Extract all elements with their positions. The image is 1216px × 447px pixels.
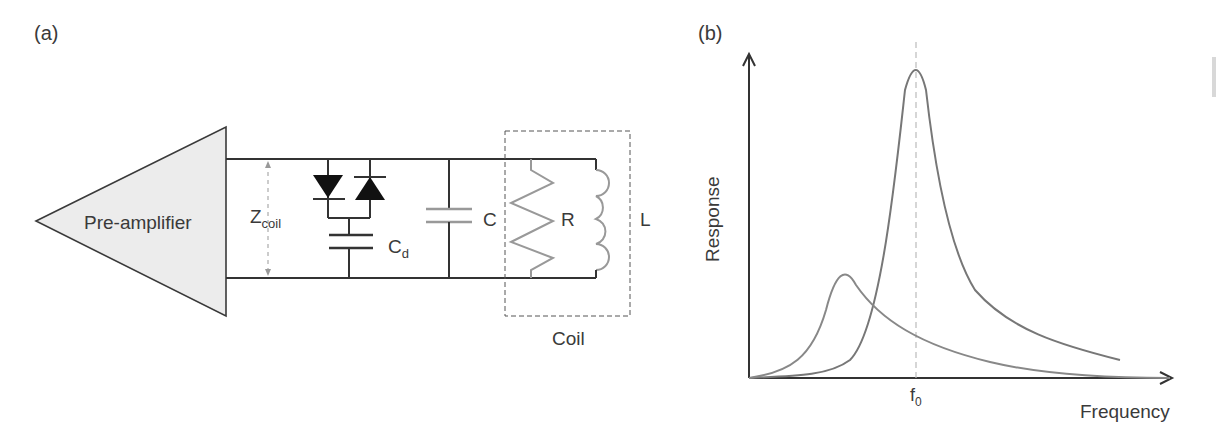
- curve-tuned: [749, 70, 1120, 378]
- y-axis-label: Response: [702, 176, 723, 262]
- inductor-l-icon: [596, 159, 609, 278]
- resistor-r-icon: [511, 159, 553, 278]
- diode-pair-icon: [313, 159, 386, 235]
- zcoil-label: Zcoil: [250, 206, 281, 231]
- chart-axes: [743, 54, 1172, 384]
- l-label: L: [640, 209, 651, 230]
- r-label: R: [561, 209, 575, 230]
- curve-detuned: [749, 274, 1170, 378]
- c-label: C: [483, 209, 497, 230]
- edge-artifact: [1212, 57, 1216, 97]
- capacitor-cd-icon: [329, 235, 373, 278]
- f0-label: f0: [910, 385, 922, 409]
- coil-label: Coil: [552, 328, 585, 349]
- cd-label: Cd: [388, 236, 409, 261]
- preamplifier-label: Pre-amplifier: [84, 212, 192, 233]
- figure-canvas: (a) Pre-amplifier Zcoil Cd C: [0, 0, 1216, 447]
- panel-a-label: (a): [34, 22, 58, 44]
- panel-b-label: (b): [698, 22, 722, 44]
- x-axis-label: Frequency: [1080, 401, 1170, 422]
- capacitor-c-icon: [426, 159, 472, 278]
